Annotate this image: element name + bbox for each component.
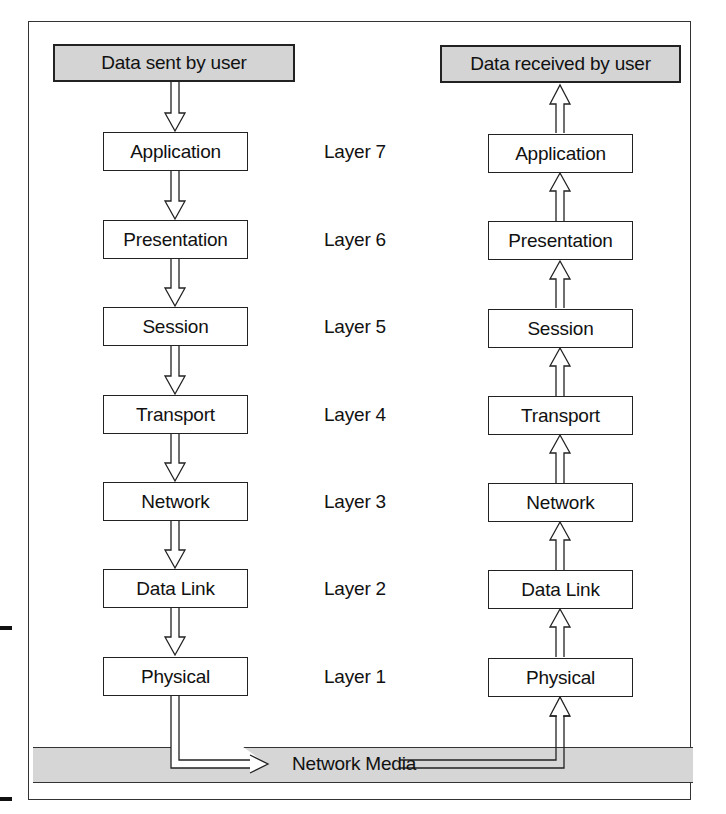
down-arrow-icon bbox=[165, 607, 185, 655]
up-arrow-icon bbox=[550, 173, 570, 221]
layer-4-label: Layer 4 bbox=[285, 404, 425, 426]
receiver-layer-data-link: Data Link bbox=[488, 570, 633, 609]
layer-5-label: Layer 5 bbox=[285, 316, 425, 338]
receiver-layer-application: Application bbox=[488, 134, 633, 173]
up-arrow-icon bbox=[550, 261, 570, 308]
down-arrow-icon bbox=[165, 433, 185, 481]
sender-layer-physical: Physical bbox=[103, 657, 248, 696]
down-arrow-icon bbox=[165, 520, 185, 568]
layer-2-label: Layer 2 bbox=[285, 578, 425, 600]
sender-layer-application: Application bbox=[103, 132, 248, 171]
layer-7-label: Layer 7 bbox=[285, 141, 425, 163]
receiver-layer-transport: Transport bbox=[488, 396, 633, 435]
receiver-layer-presentation: Presentation bbox=[488, 221, 633, 260]
sender-layer-network: Network bbox=[103, 482, 248, 521]
network-media-label: Network Media bbox=[292, 753, 416, 775]
layer-1-label: Layer 1 bbox=[285, 666, 425, 688]
up-arrow-icon bbox=[550, 348, 570, 396]
up-arrow-icon bbox=[550, 435, 570, 483]
down-arrow-icon bbox=[165, 346, 185, 394]
receiver-layer-session: Session bbox=[488, 309, 633, 348]
sender-layer-presentation: Presentation bbox=[103, 220, 248, 259]
sender-layer-session: Session bbox=[103, 307, 248, 346]
up-arrow-icon bbox=[550, 522, 570, 570]
layer-6-label: Layer 6 bbox=[285, 229, 425, 251]
up-arrow-icon bbox=[550, 609, 570, 657]
down-arrow-icon bbox=[165, 259, 185, 306]
sender-layer-transport: Transport bbox=[103, 395, 248, 434]
receiver-layer-network: Network bbox=[488, 483, 633, 522]
down-arrow-icon bbox=[165, 171, 185, 219]
sender-layer-data-link: Data Link bbox=[103, 569, 248, 608]
data-received-box: Data received by user bbox=[440, 45, 681, 83]
up-arrow-icon bbox=[550, 85, 570, 133]
down-arrow-icon bbox=[165, 82, 185, 131]
data-sent-box: Data sent by user bbox=[53, 44, 295, 82]
receiver-layer-physical: Physical bbox=[488, 658, 633, 697]
layer-3-label: Layer 3 bbox=[285, 491, 425, 513]
